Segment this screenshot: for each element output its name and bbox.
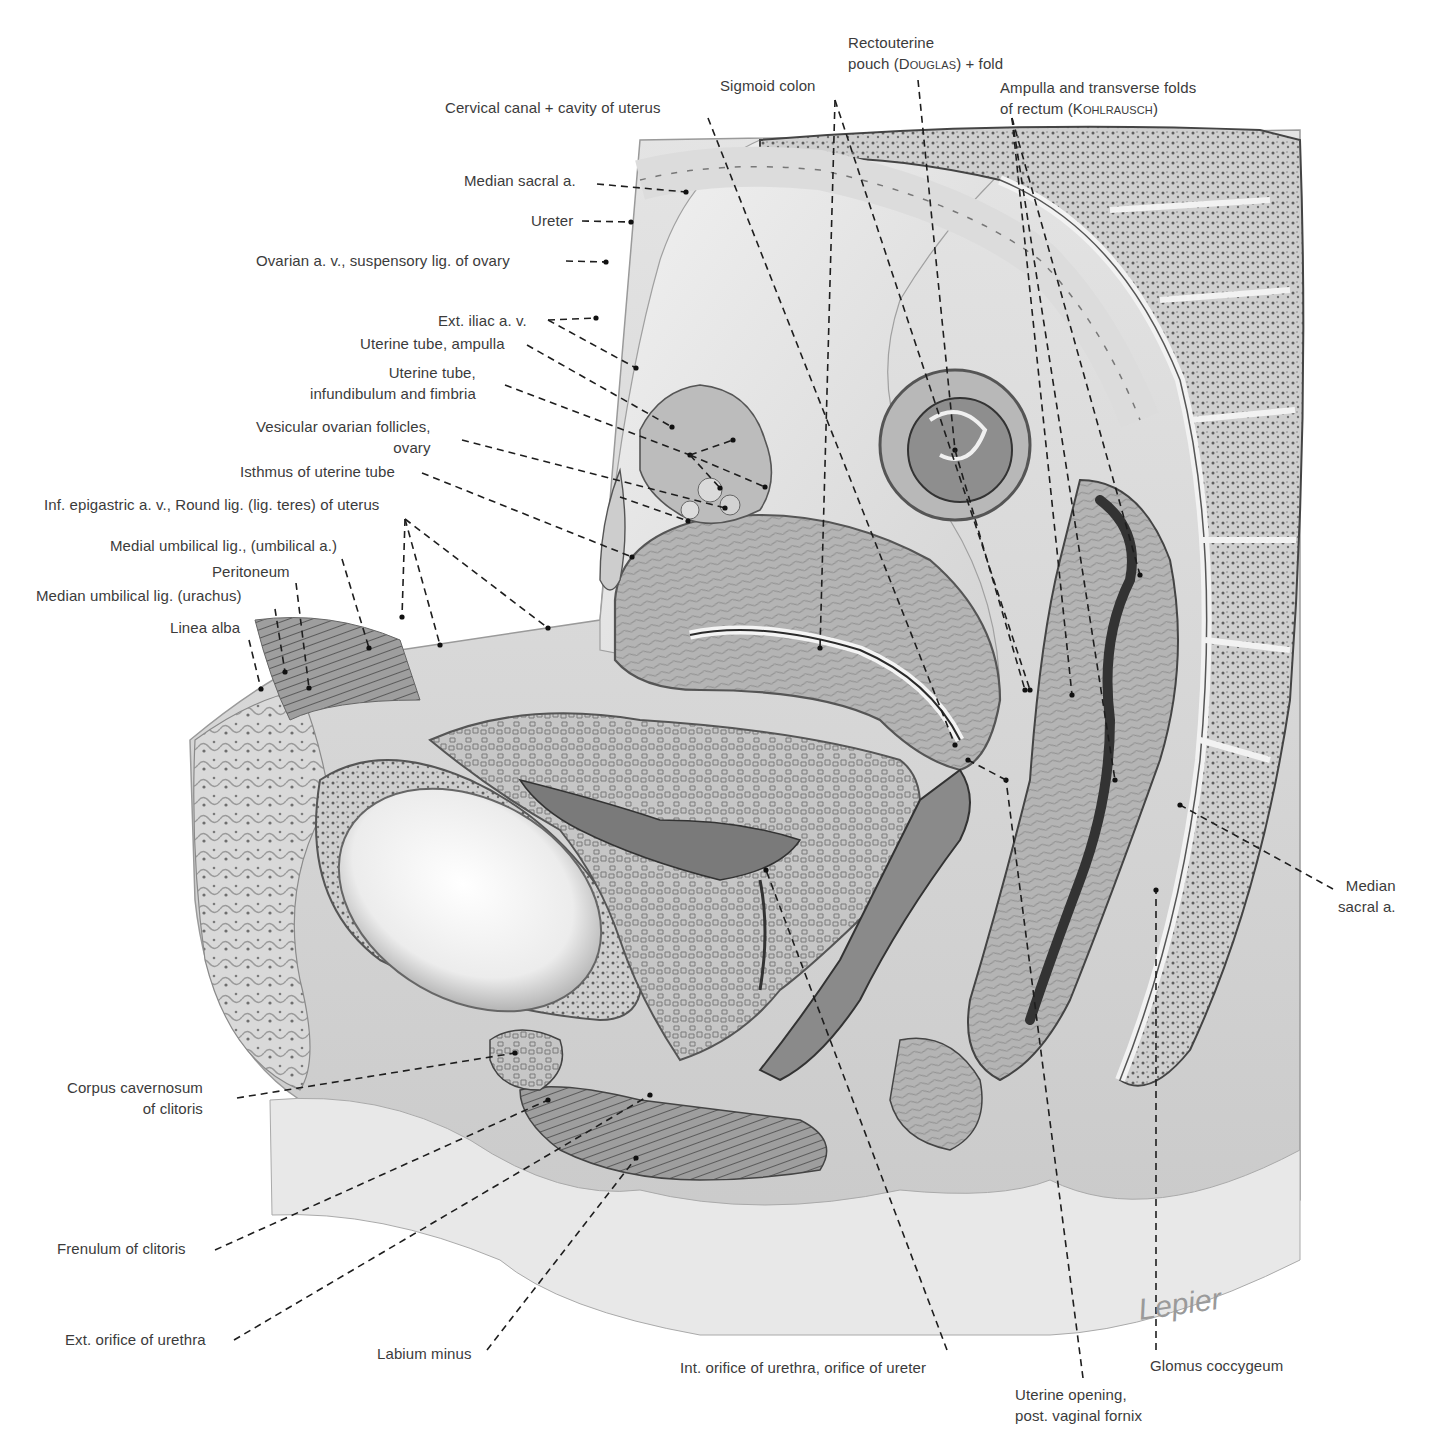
label-ext-orifice-urethra: Ext. orifice of urethra [65, 1329, 206, 1350]
label-peritoneum: Peritoneum [212, 561, 290, 582]
linea-alba-leader-line [249, 640, 261, 689]
pelvis-sagittal-section-illustration: Lepier [0, 0, 1443, 1448]
label-int-orifice-urethra: Int. orifice of urethra, orifice of uret… [680, 1357, 926, 1378]
inf-epigastric-leader-dot [399, 614, 404, 619]
label-ureter: Ureter [531, 210, 573, 231]
ureter-leader-line [582, 221, 631, 222]
sigmoid-colon-leader-dot [1027, 687, 1032, 692]
label-linea-alba: Linea alba [170, 617, 240, 638]
inf-epigastric-extra-leader-dot [545, 625, 550, 630]
uterine-tube-infundibulum-extra-leader-dot [730, 437, 735, 442]
label-ext-iliac: Ext. iliac a. v. [438, 310, 527, 331]
ampulla-rectum-leader-dot [1112, 777, 1117, 782]
median-sacral-a-top-leader-dot [683, 189, 688, 194]
uterine-tube-infundibulum-extra-leader-dot [762, 484, 767, 489]
sigmoid-colon-extra-leader-dot [817, 645, 822, 650]
ureter-leader-dot [628, 219, 633, 224]
label-labium-minus: Labium minus [377, 1343, 472, 1364]
label-vesicular-follicles: Vesicular ovarian follicles, ovary [256, 416, 431, 458]
uterine-tube-infundibulum-extra-leader-dot [717, 485, 722, 490]
label-glomus-coccygeum: Glomus coccygeum [1150, 1355, 1283, 1376]
peritoneum-leader-dot [306, 685, 311, 690]
rectouterine-pouch-extra-leader-dot [1022, 687, 1027, 692]
inf-epigastric-extra-leader-line [405, 519, 548, 628]
label-median-sacral-a-right: Median sacral a. [1338, 875, 1396, 917]
ext-orifice-urethra-leader-dot [647, 1092, 652, 1097]
medial-umbilical-leader-dot [366, 645, 371, 650]
label-corpus-cavernosum: Corpus cavernosum of clitoris [67, 1077, 203, 1119]
corpus-cavernosum-leader-dot [512, 1050, 517, 1055]
ampulla-rectum-extra-leader-dot [1069, 692, 1074, 697]
label-uterine-tube-ampulla: Uterine tube, ampulla [360, 333, 505, 354]
ampulla-rectum-extra-leader-dot [1137, 572, 1142, 577]
label-frenulum: Frenulum of clitoris [57, 1238, 186, 1259]
isthmus-tube-leader-line [422, 473, 632, 557]
int-orifice-urethra-leader-dot [763, 867, 768, 872]
label-cervical-canal: Cervical canal + cavity of uterus [445, 97, 660, 118]
label-inf-epigastric: Inf. epigastric a. v., Round lig. (lig. … [44, 494, 379, 515]
label-median-sacral-a-top: Median sacral a. [464, 170, 576, 191]
ovarian-av-leader-line [566, 261, 606, 262]
uterine-tube-ampulla-leader-dot [669, 424, 674, 429]
label-uterine-opening: Uterine opening, post. vaginal fornix [1015, 1384, 1142, 1426]
inf-epigastric-extra-leader-line [405, 519, 440, 645]
ext-iliac-leader-line [548, 318, 596, 320]
median-umbilical-leader-dot [282, 669, 287, 674]
median-sacral-a-right-leader-dot [1177, 802, 1182, 807]
vesicular-follicles-leader-dot [722, 505, 727, 510]
ovarian-av-leader-dot [603, 259, 608, 264]
cervical-canal-leader-dot [952, 742, 957, 747]
label-uterine-tube-infundibulum: Uterine tube, infundibulum and fimbria [310, 362, 476, 404]
uterine-opening-extra-leader-dot [965, 757, 970, 762]
isthmus-tube-leader-dot [629, 554, 634, 559]
label-sigmoid-colon: Sigmoid colon [720, 75, 816, 96]
linea-alba-leader-dot [258, 686, 263, 691]
inf-epigastric-extra-leader-dot [437, 642, 442, 647]
label-median-umbilical: Median umbilical lig. (urachus) [36, 585, 242, 606]
label-rectouterine-pouch: Rectouterine pouch (Douglas) + fold [848, 32, 1003, 74]
label-ovarian-av: Ovarian a. v., suspensory lig. of ovary [256, 250, 510, 271]
anatomical-figure: Lepier Rectouterine pouch (Douglas) + fo… [0, 0, 1443, 1448]
label-isthmus-tube: Isthmus of uterine tube [240, 461, 395, 482]
ext-iliac-leader-dot [593, 315, 598, 320]
frenulum-leader-dot [545, 1097, 550, 1102]
glomus-coccygeum-leader-dot [1153, 887, 1158, 892]
labium-minus-leader-dot [633, 1155, 638, 1160]
ext-iliac-extra-leader-dot [633, 365, 638, 370]
label-ampulla-rectum: Ampulla and transverse folds of rectum (… [1000, 77, 1196, 119]
vesicular-follicles-extra-leader-dot [685, 518, 690, 523]
label-medial-umbilical: Medial umbilical lig., (umbilical a.) [110, 535, 337, 556]
inf-epigastric-leader-line [402, 519, 405, 617]
